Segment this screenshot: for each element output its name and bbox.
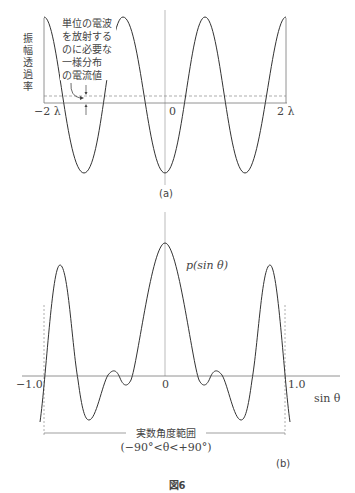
panel-b: p(sin θ) −1.0 0 1.0 sin θ 実数角度範囲 (−90°<θ…	[16, 212, 341, 469]
arrow-down-icon	[85, 92, 88, 95]
figure-caption: 図6	[169, 480, 186, 491]
arrow-head-icon	[80, 96, 84, 100]
svg-text:過: 過	[23, 69, 33, 80]
range-condition: (−90°<θ<+90°)	[120, 441, 211, 454]
arrow-up-icon	[85, 104, 88, 107]
curve-label: p(sin θ)	[186, 259, 228, 272]
svg-text:を放射する: を放射する	[62, 30, 112, 42]
svg-text:のに必要な: のに必要な	[62, 43, 112, 55]
ylabel-a: 振 幅 透 過 率	[23, 32, 33, 92]
svg-text:単位の電波: 単位の電波	[62, 17, 112, 29]
panel-a: 振 幅 透 過 率 単位の電波 を放射する のに必要な 一様分布 の電流値 −2…	[23, 10, 294, 199]
svg-text:透: 透	[23, 57, 33, 68]
xtick-zero-a: 0	[169, 105, 176, 118]
panel-label-b: (b)	[276, 458, 290, 469]
xtick-zero-b: 0	[162, 378, 169, 391]
svg-text:幅: 幅	[23, 44, 33, 56]
xtick-neg2lambda: −2 λ	[34, 105, 61, 118]
uniform-annotation: 単位の電波 を放射する のに必要な 一様分布 の電流値	[60, 16, 116, 81]
svg-text:率: 率	[23, 80, 33, 92]
panel-label-a: (a)	[159, 188, 173, 199]
xtick-neg1: −1.0	[16, 378, 43, 391]
svg-text:一様分布: 一様分布	[62, 56, 102, 68]
xtick-1: 1.0	[288, 378, 306, 391]
svg-text:振: 振	[23, 32, 33, 44]
svg-text:の電流値: の電流値	[62, 69, 102, 81]
figure-6: 振 幅 透 過 率 単位の電波 を放射する のに必要な 一様分布 の電流値 −2…	[0, 0, 355, 493]
range-label: 実数角度範囲	[136, 427, 196, 439]
xtick-2lambda: 2 λ	[277, 105, 294, 118]
xlabel-b: sin θ	[314, 392, 341, 405]
annotation-leader	[71, 83, 80, 98]
